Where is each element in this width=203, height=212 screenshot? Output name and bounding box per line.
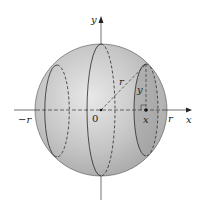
point-x-dot	[144, 108, 148, 112]
sphere-diagram: y x −r 0 r r y x	[0, 0, 203, 212]
origin-label: 0	[92, 113, 98, 124]
y-axis-arrow-icon	[99, 16, 104, 23]
neg-r-label: −r	[18, 114, 32, 125]
origin-dot	[100, 109, 102, 111]
y-axis-label: y	[90, 14, 97, 25]
x-axis-arrow-icon	[186, 108, 192, 113]
height-label: y	[136, 84, 143, 95]
pos-r-label: r	[168, 113, 174, 124]
x-axis-label: x	[186, 114, 192, 125]
point-x-label: x	[143, 114, 149, 125]
